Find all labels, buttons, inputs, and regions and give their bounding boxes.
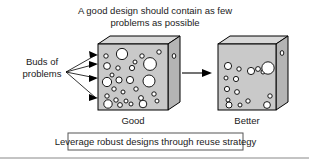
block-good-label: Good [121, 115, 144, 126]
annotation-label-line-1: Buds of [26, 56, 59, 67]
figure-title-line-2: problems as possible [110, 17, 199, 28]
annotation-leader-lines [66, 51, 98, 101]
transition-arrowhead [202, 69, 212, 77]
transition-arrow [182, 69, 212, 77]
caption-text: Leverage robust designs through reuse st… [55, 136, 257, 147]
figure-container: A good design should contain as few prob… [0, 0, 309, 163]
block-good [98, 36, 180, 110]
leader-arrowhead-2 [89, 61, 98, 68]
block-better-side-face [276, 36, 288, 110]
block-better-label: Better [234, 115, 259, 126]
block-good-side-hole [172, 54, 176, 59]
figure-title-line-1: A good design should contain as few [78, 5, 232, 16]
block-better [218, 36, 288, 110]
leader-arrowhead-3 [89, 75, 98, 82]
annotation-label-line-2: problems [22, 68, 61, 79]
block-better-side-hole [280, 51, 284, 56]
block-good-side-face [168, 36, 180, 110]
block-good-top-face [98, 36, 180, 44]
leader-arrowhead-4 [89, 94, 98, 101]
leader-arrowhead-1 [89, 51, 98, 58]
